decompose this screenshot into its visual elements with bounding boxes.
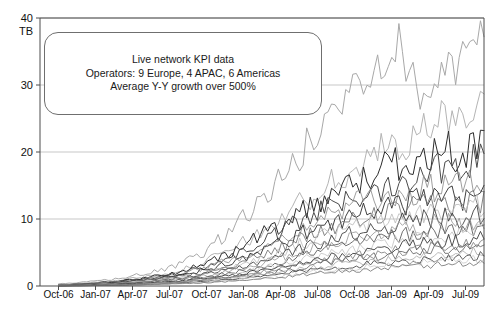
x-tick-label-4: Oct-07 — [191, 290, 221, 300]
x-tick-label-5: Jan-08 — [228, 290, 259, 300]
x-tick-label-10: Apr-09 — [413, 290, 443, 300]
x-tick-label-9: Jan-09 — [376, 290, 407, 300]
series-line-4 — [59, 170, 485, 285]
chart-figure: 40 30 20 10 0 TB Live network KPI data O… — [0, 0, 501, 314]
series-line-2 — [59, 130, 485, 284]
x-tick-label-2: Apr-07 — [117, 290, 147, 300]
x-tick-label-0: Oct-06 — [43, 290, 73, 300]
x-tick-label-7: Jul-08 — [304, 290, 331, 300]
series-line-7 — [59, 194, 485, 285]
annotation-line-3: Average Y-Y growth over 500% — [110, 80, 256, 94]
x-tick-label-1: Jan-07 — [80, 290, 111, 300]
x-tick-label-3: Jul-07 — [156, 290, 183, 300]
x-tick-label-8: Oct-08 — [339, 290, 369, 300]
x-tick-label-6: Apr-08 — [265, 290, 295, 300]
series-line-1 — [59, 91, 485, 284]
annotation-callout: Live network KPI data Operators: 9 Europ… — [44, 32, 322, 115]
x-tick-label-11: Jul-09 — [452, 290, 479, 300]
annotation-line-1: Live network KPI data — [132, 53, 234, 67]
annotation-line-2: Operators: 9 Europe, 4 APAC, 6 Americas — [86, 67, 281, 81]
